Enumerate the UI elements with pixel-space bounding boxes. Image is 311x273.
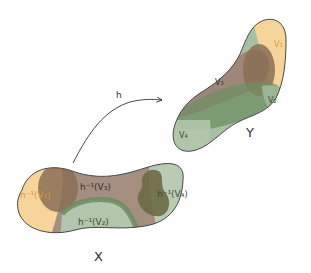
label-pre-v4: h⁻¹(V₄) <box>157 189 188 199</box>
set-label-y: Y <box>245 125 254 140</box>
label-pre-v3: h⁻¹(V₃) <box>80 182 111 192</box>
arrow-icon <box>73 99 162 163</box>
codomain-set-y: V₁ V₃ V₂ V₄ Y <box>160 10 300 160</box>
label-pre-v1: h⁻¹(V₁) <box>20 190 51 200</box>
domain-set-x: h⁻¹(V₁) h⁻¹(V₃) h⁻¹(V₄) h⁻¹(V₂) X <box>0 150 200 264</box>
preimage-diagram: h⁻¹(V₁) h⁻¹(V₃) h⁻¹(V₄) h⁻¹(V₂) X h V₁ V <box>0 0 311 273</box>
label-v1: V₁ <box>274 40 283 49</box>
map-arrow-h: h <box>73 90 162 163</box>
label-pre-v2: h⁻¹(V₂) <box>78 217 109 227</box>
label-v4: V₄ <box>179 131 188 140</box>
label-v2: V₂ <box>268 96 277 105</box>
label-v3: V₃ <box>215 78 224 87</box>
set-label-x: X <box>94 249 103 264</box>
map-label: h <box>116 90 122 100</box>
